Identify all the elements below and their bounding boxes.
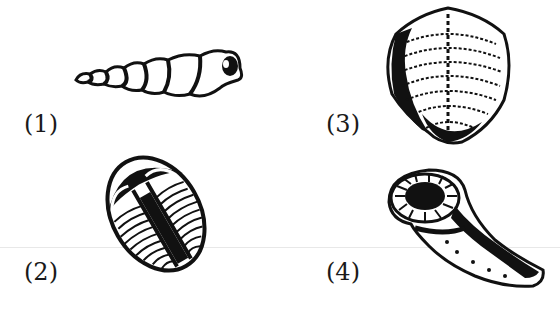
figure-label-3: (3) bbox=[326, 110, 360, 138]
figure-label-1: (1) bbox=[24, 110, 58, 138]
figure-label-4: (4) bbox=[326, 258, 360, 286]
gastropod-fossil-icon bbox=[72, 48, 247, 108]
figure-label-2: (2) bbox=[24, 258, 58, 286]
trilobite-fossil-icon bbox=[90, 152, 222, 276]
brachiopod-fossil-icon bbox=[382, 4, 514, 146]
horn-coral-fossil-icon bbox=[385, 166, 547, 290]
